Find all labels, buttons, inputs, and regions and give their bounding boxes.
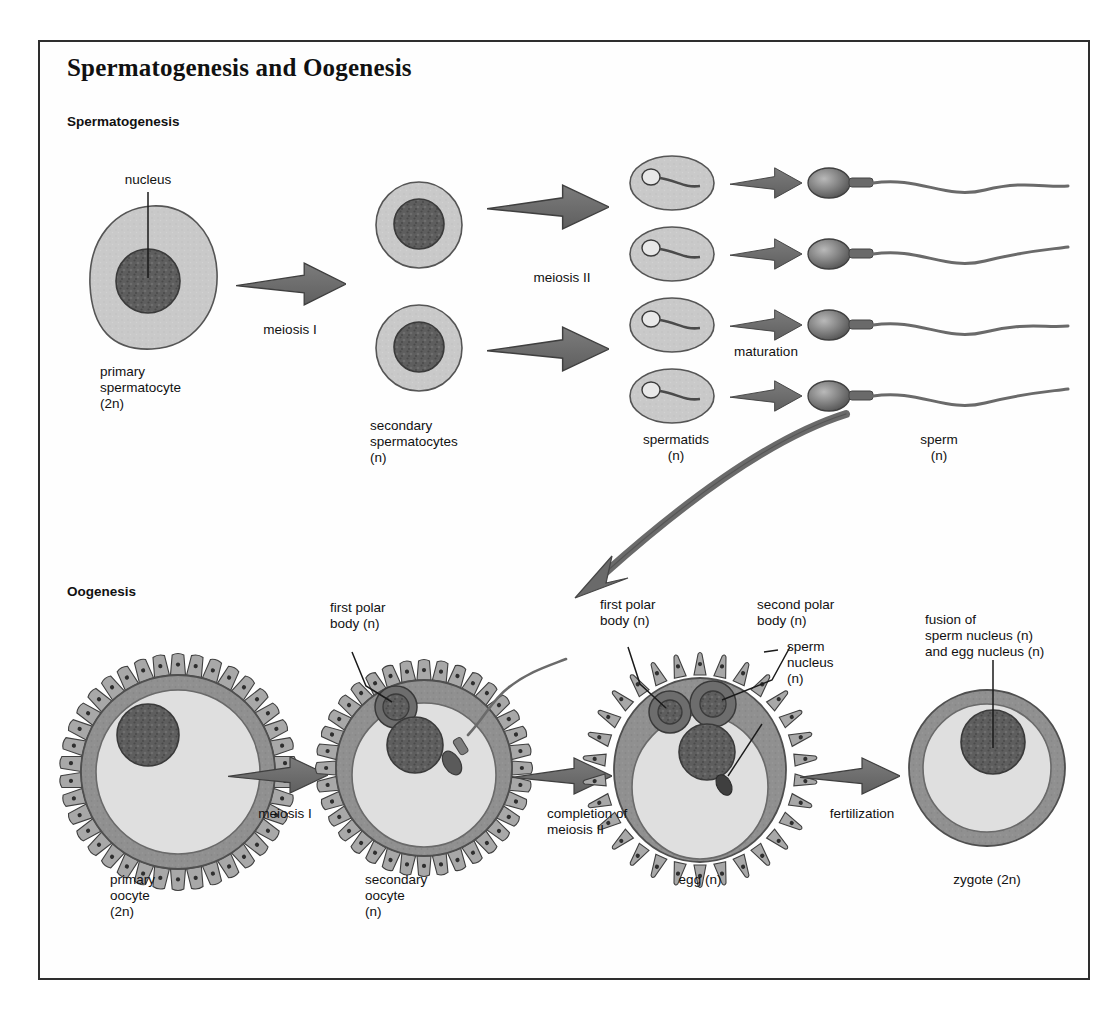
label-secondary-spermatocytes: secondary spermatocytes (n) bbox=[370, 418, 458, 466]
label-primary-oocyte: primary oocyte (2n) bbox=[110, 872, 155, 920]
label-egg: egg (n) bbox=[679, 872, 722, 888]
label-spermatids: spermatids (n) bbox=[643, 432, 709, 464]
figure-root: Spermatogenesis and Oogenesis Spermatoge… bbox=[0, 0, 1116, 1012]
label-secondary-oocyte: secondary oocyte (n) bbox=[365, 872, 427, 920]
section-heading-spermatogenesis: Spermatogenesis bbox=[67, 114, 180, 129]
label-zygote: zygote (2n) bbox=[953, 872, 1021, 888]
label-fertilization: fertilization bbox=[830, 806, 895, 822]
label-meiosis-2: meiosis II bbox=[533, 270, 590, 286]
label-nucleus: nucleus bbox=[125, 172, 172, 188]
label-maturation: maturation bbox=[734, 344, 798, 360]
label-first-polar-body-egg: first polar body (n) bbox=[600, 597, 656, 629]
label-meiosis-1-sperm: meiosis I bbox=[263, 322, 316, 338]
figure-frame bbox=[38, 40, 1090, 980]
section-heading-oogenesis: Oogenesis bbox=[67, 584, 136, 599]
label-first-polar-body-secondary: first polar body (n) bbox=[330, 600, 386, 632]
label-meiosis-1-egg: meiosis I bbox=[258, 806, 311, 822]
label-sperm-nucleus: sperm nucleus (n) bbox=[787, 639, 834, 687]
label-primary-spermatocyte: primary spermatocyte (2n) bbox=[100, 364, 181, 412]
page-title: Spermatogenesis and Oogenesis bbox=[67, 54, 412, 82]
label-sperm: sperm (n) bbox=[920, 432, 958, 464]
label-fusion: fusion of sperm nucleus (n) and egg nucl… bbox=[925, 612, 1044, 660]
label-completion-meiosis-2: completion of meiosis II bbox=[547, 806, 627, 838]
label-second-polar-body: second polar body (n) bbox=[757, 597, 834, 629]
